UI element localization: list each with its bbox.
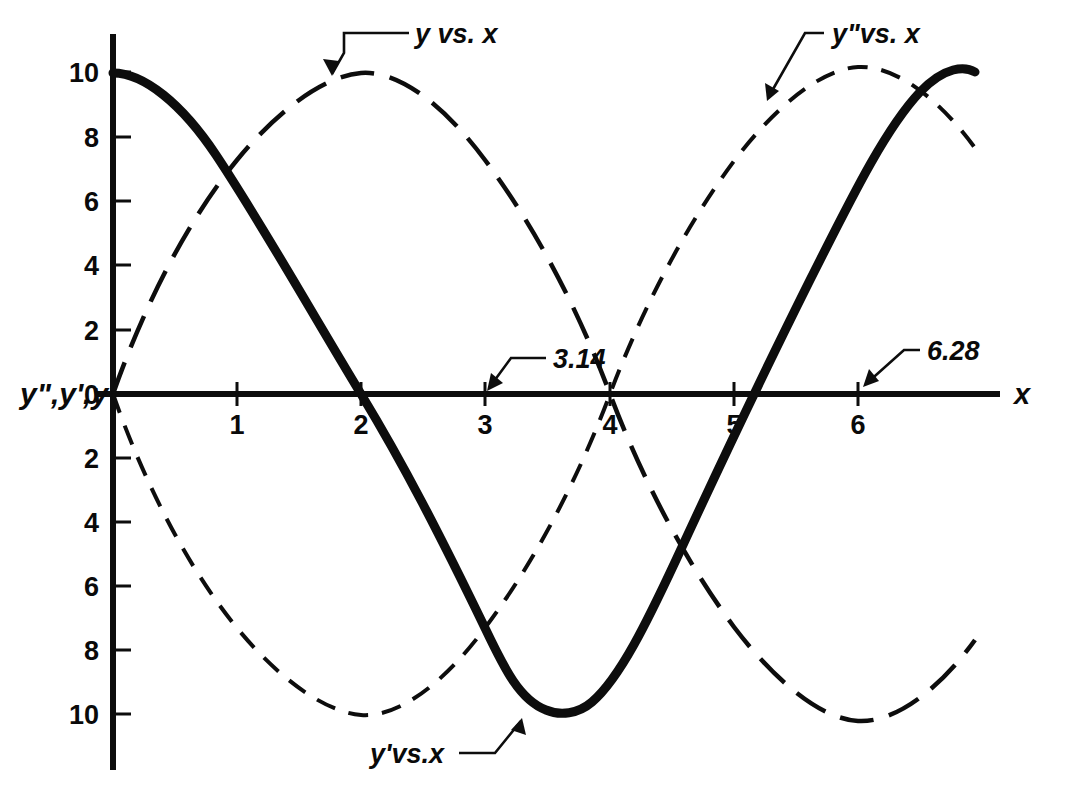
y-tick-label-4-neg: 4 (84, 508, 99, 538)
y-tick-label-10-pos: 10 (69, 58, 99, 88)
y-tick-label-10-neg: 10 (69, 700, 99, 730)
x-axis-name-label: x (1012, 378, 1032, 410)
y-tick-label-8-pos: 8 (84, 123, 99, 153)
figure-background (0, 0, 1085, 805)
figure-canvas: 10 8 6 4 2 0 2 4 6 8 10 1 2 3 4 5 6 y",y… (0, 0, 1085, 805)
curve-label-y-prime: y'vs.x (368, 739, 445, 769)
y-tick-label-4-pos: 4 (84, 251, 99, 281)
x-tick-label-1: 1 (229, 410, 244, 440)
curve-label-y: y vs. x (413, 19, 499, 49)
annotation-label-two-pi: 6.28 (927, 336, 980, 366)
x-tick-label-6: 6 (850, 410, 865, 440)
y-axis-name-label: y",y',y (18, 377, 109, 410)
annotation-label-pi: 3.14 (553, 344, 606, 374)
x-tick-label-3: 3 (477, 410, 492, 440)
y-tick-label-2-neg: 2 (84, 444, 99, 474)
y-tick-label-6-pos: 6 (84, 187, 99, 217)
x-tick-label-2: 2 (353, 410, 368, 440)
y-tick-label-6-neg: 6 (84, 572, 99, 602)
x-tick-label-4: 4 (602, 410, 617, 440)
y-tick-label-8-neg: 8 (84, 636, 99, 666)
curve-label-y-double-prime: y"vs. x (830, 19, 921, 49)
y-tick-label-2-pos: 2 (84, 316, 99, 346)
